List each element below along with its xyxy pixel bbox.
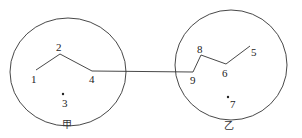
edge-1-2 — [36, 54, 60, 70]
edge-6-5 — [226, 46, 250, 64]
region-label-jia: 甲 — [62, 119, 72, 130]
node-label-1: 1 — [31, 73, 37, 85]
node-label-4: 4 — [89, 73, 95, 85]
node-label-7: 7 — [230, 98, 236, 110]
node-dot-7 — [227, 96, 229, 98]
node-dot-3 — [62, 93, 64, 95]
node-label-3: 3 — [62, 97, 68, 109]
edge-4-9 — [92, 71, 193, 72]
region-jia — [10, 18, 126, 126]
graph-diagram: 甲乙123456789 — [0, 0, 302, 138]
node-label-5: 5 — [251, 46, 257, 58]
region-label-yi: 乙 — [224, 120, 234, 131]
node-label-2: 2 — [56, 41, 62, 53]
edge-9-8 — [193, 55, 201, 72]
node-label-6: 6 — [222, 67, 228, 79]
node-label-9: 9 — [190, 74, 196, 86]
edge-2-4 — [60, 54, 92, 71]
edge-8-6 — [201, 55, 226, 64]
node-label-8: 8 — [197, 43, 203, 55]
diagram-canvas: 甲乙123456789 — [0, 0, 302, 138]
